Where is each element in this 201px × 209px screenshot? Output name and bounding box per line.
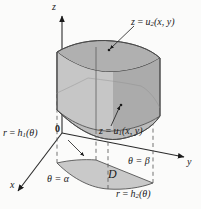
diagram-canvas: [0, 0, 201, 209]
top-surface-label: z = u2(x, y): [131, 17, 175, 28]
top-surface-eq: =: [135, 16, 146, 27]
top-surface-args: (x, y): [154, 16, 175, 27]
z-axis-label: z: [52, 2, 56, 12]
leader-u1-dot: [120, 104, 123, 107]
outer-radius-label: r = h2(θ): [116, 189, 151, 200]
inner-radius-label: r = h1(θ): [3, 128, 38, 139]
bottom-surface-eq: =: [103, 125, 114, 136]
theta-start-label: θ = α: [47, 174, 69, 184]
bottom-surface-args: (x, y): [122, 125, 143, 136]
outer-radius-eq: =: [120, 188, 131, 199]
bottom-surface-label: z = u1(x, y): [99, 126, 143, 137]
outer-radius-args: (θ): [139, 188, 151, 199]
y-axis-label: y: [187, 157, 191, 167]
leader-u2-dot: [108, 49, 111, 52]
origin-label: 0: [55, 124, 60, 134]
inner-radius-args: (θ): [26, 127, 38, 138]
leader-h1: [68, 140, 84, 156]
region-d-label: D: [108, 168, 117, 180]
theta-end-label: θ = β: [128, 156, 150, 166]
x-axis-label: x: [10, 180, 14, 190]
inner-radius-eq: =: [7, 127, 18, 138]
cylindrical-coordinates-diagram: z y x 0 z = u2(x, y) z = u1(x, y) r = h1…: [0, 0, 201, 209]
